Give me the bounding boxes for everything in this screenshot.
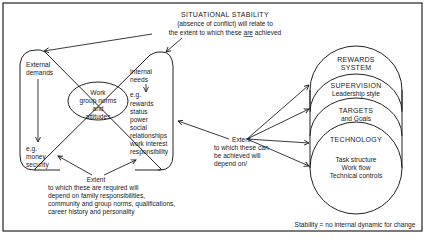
technology-detail-2: Work flow: [342, 164, 371, 171]
svg-text:attitudes: attitudes: [86, 113, 112, 120]
svg-text:relationships: relationships: [130, 132, 168, 140]
svg-text:be achieved will: be achieved will: [214, 152, 261, 159]
title-subline-2: the extent to which these are achieved: [169, 29, 282, 36]
title-subline-1: (absence of conflict) will relate to: [177, 20, 273, 28]
svg-text:Extent: Extent: [87, 176, 106, 183]
svg-text:community and group norms, qua: community and group norms, qualification…: [48, 200, 175, 208]
svg-text:e.g.: e.g.: [130, 91, 141, 99]
svg-text:depend on family responsibilit: depend on family responsibilities,: [48, 192, 145, 200]
supervision-title: SUPERVISION: [330, 82, 381, 89]
svg-text:needs: needs: [130, 76, 149, 83]
technology-title: TECHNOLOGY: [330, 136, 382, 143]
svg-text:power: power: [130, 116, 149, 124]
svg-text:and: and: [92, 105, 103, 112]
targets-title: TARGETS: [339, 107, 374, 114]
svg-text:Internal: Internal: [130, 68, 153, 75]
svg-text:money: money: [26, 153, 46, 161]
svg-text:demands: demands: [26, 69, 54, 76]
technology-detail-1: Task structure: [335, 156, 376, 163]
svg-text:depend on/: depend on/: [214, 160, 247, 168]
svg-text:security: security: [26, 161, 49, 169]
situational-stability-diagram: SITUATIONAL STABILITY (absence of confli…: [0, 0, 426, 246]
svg-text:rewards: rewards: [130, 100, 154, 107]
svg-text:status: status: [130, 108, 148, 115]
svg-text:responsibility: responsibility: [130, 148, 169, 156]
svg-text:work interest: work interest: [129, 140, 168, 147]
rewards-title: REWARDS: [337, 56, 375, 63]
svg-text:group norms: group norms: [79, 97, 117, 105]
svg-text:Work: Work: [90, 89, 106, 96]
svg-text:External: External: [26, 61, 51, 68]
rewards-subtitle: SYSTEM: [341, 64, 372, 71]
technology-detail-3: Technical controls: [330, 172, 383, 179]
supervision-subtitle: Leadership style: [332, 90, 380, 98]
svg-text:e.g.: e.g.: [26, 145, 37, 153]
targets-subtitle: and Goals: [341, 115, 372, 122]
svg-text:social: social: [130, 124, 147, 131]
svg-text:to which these are required wi: to which these are required will: [48, 184, 139, 192]
stability-definition: Stability = no internal dynamic for chan…: [295, 221, 416, 229]
title-heading: SITUATIONAL STABILITY: [181, 11, 269, 18]
svg-text:career history and personality: career history and personality: [48, 208, 135, 216]
